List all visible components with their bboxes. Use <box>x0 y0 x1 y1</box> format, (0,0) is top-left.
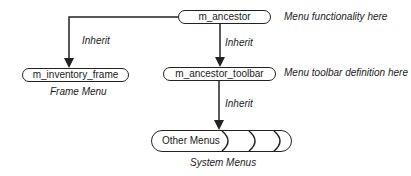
node-label: m_ancestor_toolbar <box>175 68 263 79</box>
edge-label-inherit-bottom: Inherit <box>225 98 253 109</box>
edge-label-inherit-left: Inherit <box>82 35 110 46</box>
node-other-menus: Other Menus <box>162 135 220 146</box>
node-label: m_ancestor <box>198 11 250 22</box>
annotation-menu-functionality: Menu functionality here <box>284 11 387 22</box>
node-m-ancestor: m_ancestor <box>178 10 271 24</box>
node-label: m_inventory_frame <box>33 69 119 80</box>
annotation-toolbar-definition: Menu toolbar definition here <box>284 67 408 78</box>
caption-frame-menu: Frame Menu <box>50 86 107 97</box>
node-m-ancestor-toolbar: m_ancestor_toolbar <box>163 67 276 81</box>
caption-system-menus: System Menus <box>190 157 256 168</box>
edge-label-inherit-mid: Inherit <box>225 37 253 48</box>
node-m-inventory-frame: m_inventory_frame <box>22 68 129 82</box>
